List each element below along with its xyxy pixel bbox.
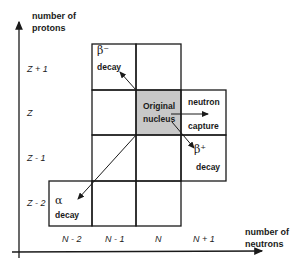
original-nucleus-cell	[136, 90, 181, 135]
x-axis-title: number of neutrons	[245, 226, 289, 250]
y-tick-z: Z	[27, 108, 33, 119]
x-tick-n-minus-2: N - 2	[62, 234, 82, 245]
beta-plus-label: decay	[196, 162, 220, 173]
alpha-label: decay	[55, 210, 79, 221]
x-tick-n: N	[155, 234, 162, 245]
beta-plus-symbol: β⁺	[194, 144, 206, 155]
beta-minus-symbol: β⁻	[97, 45, 109, 56]
x-tick-n-plus-1: N + 1	[193, 234, 215, 245]
beta-minus-label: decay	[97, 62, 121, 73]
original-nucleus-line1: Original	[143, 101, 175, 112]
neutron-capture-line2: capture	[188, 121, 219, 132]
alpha-symbol: α	[55, 195, 62, 206]
original-nucleus-line2: nucleus	[143, 114, 175, 125]
y-axis-title: number of protons	[32, 10, 76, 34]
alpha-arrow	[78, 134, 137, 199]
neutron-capture-line1: neutron	[188, 97, 220, 108]
y-tick-z-minus-1: Z - 1	[27, 153, 46, 164]
y-tick-z-plus-1: Z + 1	[27, 64, 48, 75]
y-axis-title-line1: number of	[32, 10, 76, 22]
nuclide-grid	[49, 44, 226, 226]
beta-minus-arrow	[120, 72, 136, 90]
x-axis-title-line1: number of	[245, 226, 289, 238]
x-axis	[12, 251, 262, 252]
y-tick-z-minus-2: Z - 2	[27, 198, 46, 209]
y-axis-title-line2: protons	[32, 22, 76, 34]
x-axis-title-line2: neutrons	[245, 238, 289, 250]
x-tick-n-minus-1: N - 1	[105, 234, 125, 245]
